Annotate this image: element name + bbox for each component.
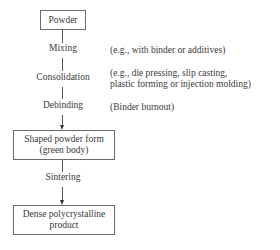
- note-debinding: (Binder burnout): [110, 102, 174, 113]
- connector-powder-mixing: [62, 30, 63, 43]
- product-label-line1: Dense polycrystalline: [23, 209, 106, 220]
- powder-label: Powder: [48, 15, 77, 26]
- step-debinding: Debinding: [22, 100, 104, 110]
- note-mixing: (e.g., with binder or additives): [110, 45, 225, 56]
- green-body-box: Shaped powder form (green body): [13, 130, 115, 160]
- green-body-label-line1: Shaped powder form: [24, 134, 104, 145]
- green-body-label-line2: (green body): [40, 145, 89, 156]
- step-mixing: Mixing: [22, 43, 104, 53]
- product-label-line2: product: [49, 220, 78, 231]
- connector-mixing-consolidation: [62, 58, 63, 71]
- connector-sintering-product: [62, 187, 63, 201]
- product-box: Dense polycrystalline product: [13, 205, 115, 235]
- note-consolidation-line1: (e.g., die pressing, slip casting,: [110, 68, 227, 79]
- connector-greenbody-sintering: [62, 160, 63, 172]
- note-consolidation-line2: plastic forming or injection molding): [110, 79, 251, 90]
- powder-box: Powder: [40, 10, 86, 30]
- step-consolidation: Consolidation: [12, 72, 114, 82]
- connector-consolidation-debinding: [62, 87, 63, 99]
- step-sintering: Sintering: [22, 172, 104, 182]
